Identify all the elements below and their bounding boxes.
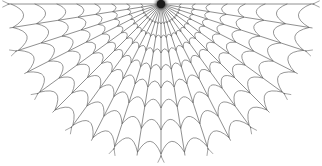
- spider-web-svg: [0, 0, 322, 166]
- web-hub-core: [157, 0, 165, 8]
- spider-web-illustration: [0, 0, 322, 166]
